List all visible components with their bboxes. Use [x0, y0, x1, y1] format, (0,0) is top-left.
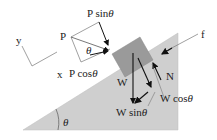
p-angle-label: θ	[86, 44, 92, 56]
y-axis-label: y	[16, 34, 22, 46]
x-axis-label: x	[57, 68, 63, 80]
p-sin-arrow	[99, 22, 108, 45]
p-cos-arrow	[90, 51, 108, 55]
p-cos-label: P cosθ	[69, 67, 98, 79]
w-cos-label: W cosθ	[160, 92, 194, 104]
coordinate-axes	[22, 46, 57, 66]
w-label: W	[117, 76, 128, 88]
incline-angle-label: θ	[63, 116, 69, 128]
p-force-components	[71, 22, 110, 62]
n-label: N	[166, 70, 174, 82]
p-sin-label: P sinθ	[87, 7, 114, 19]
p-label: P	[60, 30, 66, 42]
w-sin-label: W sinθ	[116, 106, 148, 118]
friction-label: f	[201, 28, 205, 40]
incline-force-diagram: θ y x P P sinθ θ P cosθ f W N W cosθ W s…	[0, 0, 217, 140]
